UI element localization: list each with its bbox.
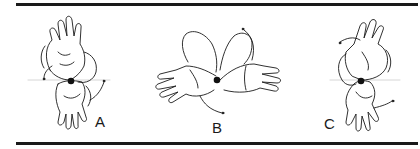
panel-b-axis-dot bbox=[214, 77, 221, 84]
panel-b-hands bbox=[156, 28, 281, 114]
panel-b-label: B bbox=[212, 120, 222, 135]
panel-a-label: A bbox=[95, 114, 105, 129]
panel-c-hands bbox=[330, 20, 400, 131]
panel-c-label: C bbox=[324, 116, 335, 131]
panel-a-axis-dot bbox=[68, 78, 75, 85]
panel-c-axis-dot bbox=[358, 78, 365, 85]
figure-drawing bbox=[0, 0, 420, 149]
